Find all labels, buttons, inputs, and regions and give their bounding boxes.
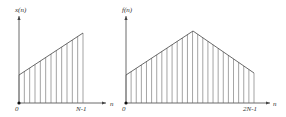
right-xlabel: n: [273, 100, 277, 108]
left-end-label: N-1: [75, 105, 87, 113]
left-xlabel: n: [110, 100, 114, 108]
right-stems: [126, 31, 254, 103]
left-ylabel: x(n): [14, 6, 27, 14]
right-origin-label: 0: [122, 105, 126, 113]
right-end-label: 2N-1: [243, 105, 257, 113]
left-stems: [19, 33, 83, 103]
right-envelope: [126, 31, 254, 75]
diagram-canvas: x(n) n 0 N-1 f(n) n 0 2N-1: [0, 0, 286, 117]
right-ylabel: f(n): [122, 6, 133, 14]
left-origin-label: 0: [15, 105, 19, 113]
left-plot: x(n) n 0 N-1: [14, 6, 114, 113]
right-plot: f(n) n 0 2N-1: [122, 6, 277, 113]
